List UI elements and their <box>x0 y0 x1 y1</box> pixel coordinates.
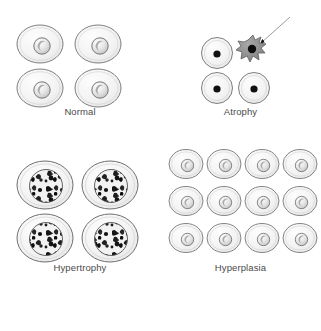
normal-cell <box>207 187 241 216</box>
normal-cell <box>75 25 121 63</box>
panel-label-atrophy: Atrophy <box>160 106 321 117</box>
apoptotic-leader-line <box>261 17 290 43</box>
normal-cell-group <box>0 0 160 104</box>
hypertrophic-cell <box>82 214 138 262</box>
normal-cell <box>169 187 203 216</box>
normal-cell <box>17 69 63 107</box>
panel-normal: Normal <box>0 0 160 140</box>
normal-cell <box>245 224 279 253</box>
hyperplasia-cell-group <box>160 140 321 262</box>
panel-hyperplasia: Hyperplasia <box>160 140 321 290</box>
atrophy-cell-group <box>160 0 321 110</box>
atrophic-cell <box>202 38 233 69</box>
normal-cell <box>17 25 63 63</box>
normal-cell <box>169 224 203 253</box>
normal-cell <box>169 150 203 179</box>
panel-atrophy: Apoptotic cell Atrophy <box>160 0 321 140</box>
panel-label-normal: Normal <box>0 106 160 117</box>
normal-cell <box>283 224 317 253</box>
normal-cell <box>283 187 317 216</box>
normal-cell <box>245 187 279 216</box>
hypertrophic-cell <box>17 161 73 209</box>
cellular-adaptations-figure: Normal <box>0 0 321 331</box>
normal-cell <box>207 224 241 253</box>
apoptotic-body <box>236 35 266 62</box>
hypertrophic-cell <box>82 161 138 209</box>
hypertrophy-cell-group <box>0 140 160 262</box>
panel-label-hyperplasia: Hyperplasia <box>160 262 321 273</box>
normal-cell <box>75 69 121 107</box>
panel-hypertrophy: Hypertrophy <box>0 140 160 290</box>
normal-cell <box>245 150 279 179</box>
atrophic-cell <box>239 73 270 104</box>
panel-label-hypertrophy: Hypertrophy <box>0 262 160 273</box>
hypertrophic-cell <box>17 214 73 262</box>
normal-cell <box>283 150 317 179</box>
atrophic-cell <box>202 73 233 104</box>
normal-cell <box>207 150 241 179</box>
